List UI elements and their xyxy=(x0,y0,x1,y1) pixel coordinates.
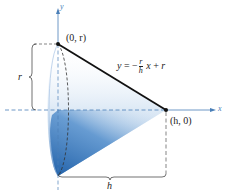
point-right xyxy=(164,108,168,112)
point-top-label: (0, r) xyxy=(66,33,86,43)
x-axis-arrow-icon xyxy=(210,108,216,112)
point-top xyxy=(56,42,60,46)
height-label: h xyxy=(107,181,112,191)
height-brace xyxy=(58,174,166,180)
y-axis-label: y xyxy=(60,3,64,11)
point-right-label: (h, 0) xyxy=(170,116,192,126)
eq-lhs: y xyxy=(117,60,121,71)
radius-brace xyxy=(29,44,36,110)
eq-fraction: rh xyxy=(139,58,143,75)
eq-equals: = xyxy=(124,60,130,71)
line-equation: y = −rh x + r xyxy=(117,58,165,75)
cone-volume-diagram: y x (0, r) (h, 0) y = −rh x + r r h xyxy=(0,0,227,194)
point-top-text: (0, r) xyxy=(66,32,86,43)
eq-plus: + xyxy=(153,60,159,71)
point-right-text: (h, 0) xyxy=(170,115,192,126)
diagram-canvas xyxy=(0,0,227,194)
eq-rhs: r xyxy=(161,60,165,71)
eq-x: x xyxy=(146,60,150,71)
eq-minus: − xyxy=(132,60,138,71)
x-axis-label: x xyxy=(218,105,222,113)
eq-frac-den: h xyxy=(139,67,143,75)
radius-label: r xyxy=(18,72,22,82)
